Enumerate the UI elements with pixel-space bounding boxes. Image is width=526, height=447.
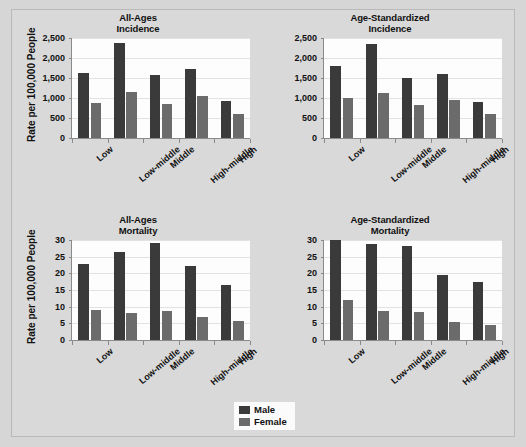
y-tick-label: 2,000 [264, 54, 317, 63]
chart-all-ages-incidence: All-AgesIncidenceRate per 100,000 People… [12, 10, 264, 210]
bar-male [366, 244, 377, 340]
x-tick-mark [214, 341, 215, 345]
legend-swatch-male [239, 406, 250, 414]
bar-female [126, 313, 137, 340]
x-tick-label: Low [95, 347, 115, 365]
y-tick-label: 25 [12, 253, 65, 262]
bar-female [162, 311, 173, 340]
y-tick-label: 5 [264, 319, 317, 328]
x-tick-mark [324, 341, 325, 345]
x-tick-mark [179, 139, 180, 143]
y-tick-label: 5 [12, 319, 65, 328]
gridline [72, 240, 250, 241]
x-tick-label: High [490, 347, 511, 367]
y-tick-label: 0 [264, 134, 317, 143]
bar-female [126, 92, 137, 138]
bar-female [343, 300, 354, 340]
gridline [324, 78, 502, 79]
x-tick-mark [431, 139, 432, 143]
y-tick-label: 0 [12, 336, 65, 345]
chart-title-line2: Mortality [264, 225, 516, 236]
y-tick-label: 15 [264, 286, 317, 295]
bar-male [114, 252, 125, 340]
gridline [324, 273, 502, 274]
chart-title-line1: Age-Standardized [264, 214, 516, 225]
bar-male [185, 69, 196, 138]
chart-title: Age-StandardizedMortality [264, 214, 516, 236]
bar-female [197, 96, 208, 138]
y-tick-label: 1,500 [12, 74, 65, 83]
y-tick-label: 30 [12, 236, 65, 245]
x-tick-mark [502, 139, 503, 143]
x-axis-line [323, 138, 502, 139]
y-tick-label: 500 [264, 114, 317, 123]
x-tick-mark [360, 139, 361, 143]
x-tick-label: Low [95, 145, 115, 163]
bar-male [221, 101, 232, 138]
y-tick-label: 10 [12, 303, 65, 312]
y-axis-label: Rate per 100,000 People [26, 27, 37, 142]
y-axis-line [71, 38, 72, 138]
chart-all-ages-mortality: All-AgesMortalityRate per 100,000 People… [12, 210, 264, 395]
gridline [72, 78, 250, 79]
gridline [72, 273, 250, 274]
bar-male [185, 266, 196, 340]
x-tick-label: Low [347, 145, 367, 163]
x-tick-label: High [490, 145, 511, 165]
bar-male [437, 74, 448, 138]
y-tick-label: 1,500 [264, 74, 317, 83]
x-tick-mark [324, 139, 325, 143]
x-tick-mark [108, 139, 109, 143]
bar-male [150, 243, 161, 340]
x-tick-mark [143, 139, 144, 143]
x-tick-mark [360, 341, 361, 345]
x-tick-mark [431, 341, 432, 345]
y-tick-label: 1,000 [12, 94, 65, 103]
chart-age-standardized-mortality: Age-StandardizedMortality051015202530Low… [264, 210, 516, 395]
x-axis-line [71, 340, 250, 341]
y-tick-label: 30 [264, 236, 317, 245]
bar-female [162, 104, 173, 138]
bar-female [233, 321, 244, 340]
legend: Male Female [234, 402, 295, 430]
chart-age-standardized-incidence: Age-StandardizedIncidence05001,0001,5002… [264, 10, 516, 210]
x-tick-mark [108, 341, 109, 345]
plot-area [324, 240, 502, 340]
x-axis-line [71, 138, 250, 139]
y-axis-line [323, 38, 324, 138]
plot-area [72, 38, 250, 138]
gridline [72, 257, 250, 258]
y-tick-label: 20 [264, 269, 317, 278]
x-tick-mark [395, 139, 396, 143]
y-tick-label: 0 [264, 336, 317, 345]
x-tick-mark [466, 341, 467, 345]
x-tick-label: Low [347, 347, 367, 365]
bar-male [473, 282, 484, 340]
x-tick-mark [72, 341, 73, 345]
plot-area [324, 38, 502, 138]
x-tick-mark [214, 139, 215, 143]
bar-male [366, 44, 377, 138]
chart-title-line1: All-Ages [12, 214, 264, 225]
bar-female [449, 322, 460, 340]
y-tick-label: 10 [264, 303, 317, 312]
bar-male [402, 246, 413, 340]
y-tick-label: 1,000 [264, 94, 317, 103]
x-tick-mark [502, 341, 503, 345]
y-axis-line [323, 240, 324, 340]
gridline [72, 98, 250, 99]
bar-male [221, 285, 232, 340]
legend-label-male: Male [254, 405, 275, 415]
x-tick-mark [143, 341, 144, 345]
x-tick-mark [72, 139, 73, 143]
y-tick-label: 500 [12, 114, 65, 123]
bar-male [78, 264, 89, 340]
bar-female [343, 98, 354, 138]
bar-female [414, 105, 425, 138]
gridline [72, 58, 250, 59]
x-axis-line [323, 340, 502, 341]
bar-female [414, 312, 425, 340]
bar-female [91, 310, 102, 340]
y-axis-line [71, 240, 72, 340]
gridline [72, 38, 250, 39]
